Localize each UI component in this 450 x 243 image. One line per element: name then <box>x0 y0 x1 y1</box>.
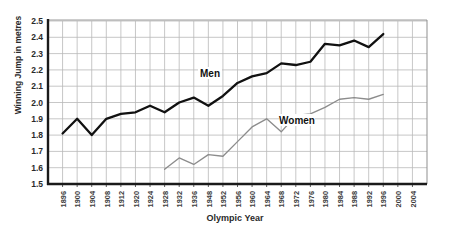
y-tick-label: 2.3 <box>31 49 43 59</box>
chart-container: Winning Jump in metres Olympic Year 1.51… <box>0 0 450 243</box>
x-tick-label: 1904 <box>88 190 97 207</box>
y-tick-label: 2.0 <box>31 98 43 108</box>
axes <box>47 19 427 187</box>
x-tick-label: 1976 <box>307 191 316 207</box>
x-tick-label: 1932 <box>175 191 184 207</box>
x-tick-label: 1984 <box>336 190 345 207</box>
x-tick-label: 1956 <box>234 191 243 207</box>
x-tick-label: 1908 <box>103 191 112 207</box>
y-tick-label: 2.1 <box>31 81 43 91</box>
y-axis-ticks: 1.51.61.71.81.92.02.12.22.32.42.5 <box>31 16 43 189</box>
x-tick-label: 2000 <box>394 191 403 207</box>
series-line-women <box>165 94 384 169</box>
x-tick-label: 1912 <box>117 191 126 207</box>
y-tick-label: 2.4 <box>31 32 43 42</box>
x-tick-label: 1952 <box>219 191 228 207</box>
y-tick-label: 1.5 <box>31 179 43 189</box>
x-tick-label: 1896 <box>59 191 68 207</box>
y-tick-label: 1.8 <box>31 130 43 140</box>
x-tick-label: 1936 <box>190 191 199 207</box>
x-tick-label: 2004 <box>409 190 418 207</box>
line-chart-plot: 1.51.61.71.81.92.02.12.22.32.42.5 189619… <box>0 0 450 243</box>
x-tick-label: 1900 <box>73 191 82 207</box>
x-tick-label: 1996 <box>379 191 388 207</box>
x-tick-label: 1960 <box>248 191 257 207</box>
y-tick-label: 1.6 <box>31 163 43 173</box>
x-tick-label: 1988 <box>350 191 359 207</box>
series-label-women: Women <box>279 115 315 126</box>
x-tick-label: 1948 <box>205 191 214 207</box>
x-tick-label: 1920 <box>132 191 141 207</box>
x-tick-label: 1928 <box>161 191 170 207</box>
x-axis-ticks: 1896190019041908191219201924192819321936… <box>59 190 418 207</box>
y-tick-label: 2.2 <box>31 65 43 75</box>
x-tick-label: 1964 <box>263 190 272 207</box>
y-tick-label: 1.9 <box>31 114 43 124</box>
y-tick-label: 2.5 <box>31 16 43 26</box>
series-label-men: Men <box>200 68 220 79</box>
x-tick-label: 1992 <box>365 191 374 207</box>
y-tick-label: 1.7 <box>31 146 43 156</box>
x-tick-label: 1980 <box>321 191 330 207</box>
x-tick-label: 1924 <box>146 190 155 207</box>
x-tick-label: 1968 <box>277 191 286 207</box>
x-tick-label: 1972 <box>292 191 301 207</box>
